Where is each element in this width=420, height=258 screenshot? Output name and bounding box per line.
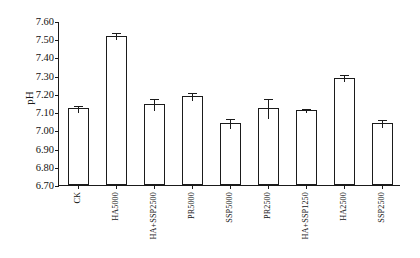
y-axis-tick-mark <box>55 168 59 169</box>
y-axis-tick-label: 6.90 <box>18 145 54 156</box>
bar <box>106 36 127 185</box>
y-axis-tick-label: 7.40 <box>18 53 54 64</box>
x-axis-tick-label: SSP5000 <box>225 192 234 223</box>
bar <box>296 110 317 185</box>
error-bar-cap <box>226 119 235 120</box>
y-axis-tick-label: 7.00 <box>18 126 54 137</box>
x-axis-tick-label: HA5000 <box>111 192 120 221</box>
y-axis-tick-label: 7.20 <box>18 90 54 101</box>
x-axis-tick-label-wrapper: PR2500 <box>248 186 286 258</box>
x-axis-tick-label: HA2500 <box>339 192 348 221</box>
y-axis-tick-mark <box>55 77 59 78</box>
bar <box>68 108 89 185</box>
error-bar-stem <box>230 119 231 130</box>
y-axis-tick-label: 7.60 <box>18 17 54 28</box>
error-bar-stem <box>268 99 269 119</box>
x-axis-tick-label-wrapper: HA+SSP2500 <box>134 186 172 258</box>
error-bar-cap <box>74 106 83 107</box>
error-bar-stem <box>154 99 155 112</box>
x-axis-tick-label: PR2500 <box>263 192 272 219</box>
y-axis-tick-label: 6.70 <box>18 181 54 192</box>
bar <box>182 96 203 185</box>
y-axis-tick-label: 7.50 <box>18 35 54 46</box>
error-bar-cap <box>150 99 159 100</box>
x-axis-tick-label-wrapper: HA+SSP1250 <box>286 186 324 258</box>
x-axis-tick-label-wrapper: CK <box>58 186 96 258</box>
error-bar-cap <box>264 99 273 100</box>
y-axis-tick-label: 7.30 <box>18 72 54 83</box>
y-axis-tick-label: 7.10 <box>18 108 54 119</box>
y-axis-tick-labels: 7.607.507.407.307.207.107.006.906.806.70 <box>18 0 54 258</box>
y-axis-tick-mark <box>55 22 59 23</box>
x-axis-tick-label-wrapper: SSP2500 <box>362 186 400 258</box>
error-bar-cap <box>112 33 121 34</box>
y-axis-tick-mark <box>55 40 59 41</box>
error-bar-cap <box>378 120 387 121</box>
y-axis-tick-mark <box>55 113 59 114</box>
x-axis-tick-label: HA+SSP1250 <box>301 192 310 239</box>
x-axis-tick-labels: CKHA5000HA+SSP2500PR5000SSP5000PR2500HA+… <box>58 186 400 258</box>
error-bar-cap <box>340 75 349 76</box>
ph-bar-chart: pH 7.607.507.407.307.207.107.006.906.806… <box>0 0 420 258</box>
bar <box>220 123 241 185</box>
y-axis-tick-label: 6.80 <box>18 163 54 174</box>
x-axis-tick-label-wrapper: HA5000 <box>96 186 134 258</box>
x-axis-tick-label: SSP2500 <box>377 192 386 223</box>
bar <box>372 123 393 185</box>
error-bar-stem <box>192 93 193 101</box>
x-axis-tick-label-wrapper: PR5000 <box>172 186 210 258</box>
y-axis-tick-mark <box>55 58 59 59</box>
x-axis-tick-label: HA+SSP2500 <box>149 192 158 239</box>
error-bar-cap <box>302 109 311 110</box>
x-axis-tick-label-wrapper: HA2500 <box>324 186 362 258</box>
plot-area <box>58 22 400 186</box>
x-axis-tick-label: PR5000 <box>187 192 196 219</box>
y-axis-tick-mark <box>55 95 59 96</box>
bar <box>334 78 355 186</box>
y-axis-tick-mark <box>55 131 59 132</box>
y-axis-tick-mark <box>55 150 59 151</box>
error-bar-cap <box>188 93 197 94</box>
error-bar-stem <box>382 120 383 128</box>
x-axis-tick-label-wrapper: SSP5000 <box>210 186 248 258</box>
bar <box>144 104 165 185</box>
x-axis-tick-label: CK <box>73 192 82 204</box>
bar <box>258 108 279 185</box>
